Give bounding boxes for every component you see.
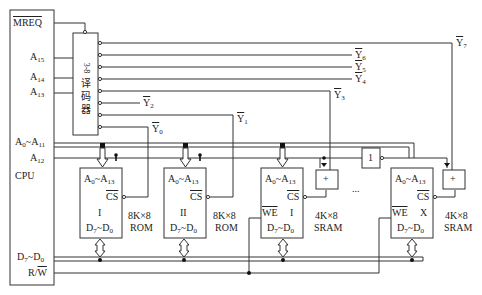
- rw-label: R/W: [28, 268, 47, 278]
- y3-label: Y3: [334, 90, 345, 102]
- y7-label: Y7: [456, 38, 467, 50]
- rom2-cs-label: CS: [190, 192, 202, 202]
- decoder-type-label: 3-8: [80, 61, 92, 75]
- rom1-type: ROM: [130, 223, 153, 233]
- mreq-label: MREQ: [13, 18, 42, 28]
- a13-label: A13: [30, 87, 44, 99]
- a0-a11-label: A0~A11: [15, 137, 45, 149]
- a15-label: A15: [30, 52, 44, 64]
- sramx-data-label: D7~D0: [397, 223, 424, 235]
- sramx-we-label: WE: [392, 208, 408, 218]
- sram1-cs-label: CS: [287, 192, 299, 202]
- rom1-addr-label: A0~A13: [84, 174, 114, 186]
- a12-label: A12: [30, 153, 44, 165]
- ellipsis: ...: [352, 184, 360, 194]
- y0-label: Y0: [152, 124, 163, 136]
- rom2-addr-label: A0~A13: [168, 174, 198, 186]
- y1-label: Y1: [237, 114, 248, 126]
- a14-label: A14: [30, 72, 44, 84]
- rom2-index: II: [180, 208, 187, 218]
- sram1-size: 4K×8: [315, 211, 338, 221]
- y2-label: Y2: [143, 98, 154, 110]
- decoder-char-1: 译: [79, 78, 93, 90]
- d7-d0-label: D7~D0: [17, 252, 44, 264]
- sram1-index: I: [290, 208, 293, 218]
- rom1-data-label: D7~D0: [86, 223, 113, 235]
- sramx-cs-label: CS: [417, 192, 429, 202]
- circuit-diagram: [0, 0, 482, 295]
- rom1-index: I: [98, 208, 101, 218]
- rom2-type: ROM: [215, 223, 238, 233]
- cpu-label: CPU: [15, 171, 34, 181]
- sramx-type: SRAM: [444, 223, 472, 233]
- sramx-index: X: [420, 208, 427, 218]
- decoder-char-2: 码: [79, 91, 93, 103]
- rom2-data-label: D7~D0: [170, 223, 197, 235]
- rom2-size: 8K×8: [213, 211, 236, 221]
- sram1-data-label: D7~D0: [267, 223, 294, 235]
- or-gate-1-label: +: [323, 174, 329, 184]
- rom1-cs-label: CS: [106, 192, 118, 202]
- sram1-addr-label: A0~A13: [265, 174, 295, 186]
- not-gate-label: 1: [368, 153, 373, 163]
- sramx-size: 4K×8: [445, 211, 468, 221]
- sram1-we-label: WE: [262, 208, 278, 218]
- y4-label: Y4: [355, 74, 366, 86]
- decoder-char-3: 器: [79, 104, 93, 116]
- sram1-type: SRAM: [314, 223, 342, 233]
- or-gate-x-label: +: [450, 174, 456, 184]
- rom1-size: 8K×8: [128, 211, 151, 221]
- sramx-addr-label: A0~A13: [395, 174, 425, 186]
